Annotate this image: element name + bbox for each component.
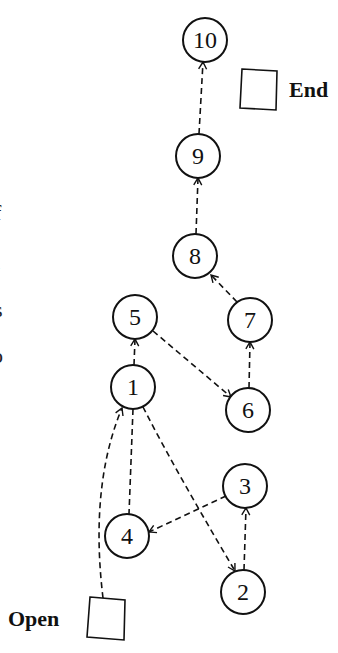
edge-3-to-4	[149, 496, 226, 532]
end-box-icon	[240, 69, 277, 110]
end-marker[interactable]: End	[240, 69, 328, 110]
node-label: 6	[242, 397, 254, 423]
clipped-text-line: f	[0, 200, 2, 225]
edge-1-to-4	[129, 409, 133, 514]
node-label: 9	[192, 143, 204, 169]
node-1[interactable]: 1	[111, 365, 155, 409]
node-label: 2	[237, 579, 249, 605]
node-8[interactable]: 8	[173, 234, 217, 278]
edge-7-to-8	[211, 275, 237, 302]
node-9[interactable]: 9	[176, 134, 220, 178]
node-label: 5	[129, 304, 141, 330]
node-label: 4	[121, 523, 133, 549]
clipped-text-line: s	[0, 297, 3, 322]
node-7[interactable]: 7	[228, 298, 272, 342]
node-label: 1	[127, 374, 139, 400]
node-3[interactable]: 3	[223, 464, 267, 508]
edge-6-to-7	[249, 342, 250, 388]
edge-open-to-1	[99, 408, 122, 598]
node-label: 7	[244, 307, 256, 333]
edge-2-to-3	[244, 508, 246, 570]
node-5[interactable]: 5	[113, 295, 157, 339]
node-10[interactable]: 10	[183, 18, 227, 62]
node-6[interactable]: 6	[226, 388, 270, 432]
edge-8-to-9	[196, 178, 198, 234]
edge-9-to-10	[199, 62, 203, 134]
edge-1-to-2	[143, 407, 235, 571]
edge-1-to-5	[134, 339, 135, 365]
node-label: 8	[189, 243, 201, 269]
graph-diagram: f l s o 10 9 8 5 7 1 6 3 4 2 End Op	[0, 0, 338, 653]
edge-5-to-6	[153, 331, 231, 397]
open-box-icon	[87, 597, 125, 640]
node-label: 3	[239, 473, 251, 499]
open-marker[interactable]: Open	[8, 597, 125, 640]
clipped-body-text: f l s o	[0, 200, 3, 368]
clipped-text-line: o	[0, 343, 3, 368]
end-label: End	[289, 77, 328, 102]
open-label: Open	[8, 606, 59, 631]
node-4[interactable]: 4	[105, 514, 149, 558]
node-label: 10	[193, 27, 217, 53]
node-2[interactable]: 2	[221, 570, 265, 614]
